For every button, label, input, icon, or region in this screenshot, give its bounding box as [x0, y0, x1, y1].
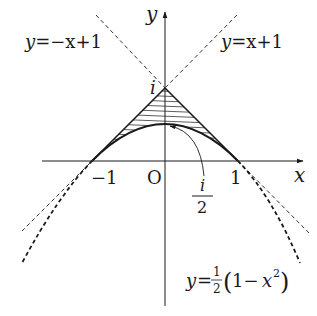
svg-text:2: 2 — [197, 198, 207, 217]
svg-text:y=−x+1: y=−x+1 — [24, 31, 102, 52]
svg-text:): ) — [280, 268, 289, 296]
svg-text:i: i — [200, 176, 205, 195]
svg-text:y: y — [185, 270, 197, 291]
parabola-dashed-right — [238, 161, 300, 263]
label-y-eq-x-plus-1: y=x+1 — [220, 31, 283, 52]
tick-label-neg-one: −1 — [91, 167, 118, 188]
apex-label: i — [150, 77, 156, 98]
svg-text:2: 2 — [213, 282, 221, 296]
svg-text:=: = — [197, 270, 212, 291]
origin-label: O — [147, 167, 162, 188]
vertex-pointer-arrow — [170, 126, 204, 176]
x-axis-label: x — [294, 163, 305, 187]
svg-text:1−: 1− — [232, 270, 259, 291]
label-parabola: y = 1 2 ( 1− x 2 ) — [185, 265, 289, 296]
y-axis-label: y — [145, 2, 158, 26]
parabola-dashed-left — [22, 161, 92, 263]
label-y-eq-neg-x-plus-1: y=−x+1 — [24, 31, 102, 52]
svg-text:(: ( — [223, 268, 232, 296]
svg-text:2: 2 — [273, 267, 280, 280]
vertex-label: i 2 — [192, 176, 213, 217]
tick-label-pos-one: 1 — [230, 167, 241, 188]
svg-text:x: x — [262, 270, 272, 291]
diagram-canvas: y x O −1 1 i i 2 y=−x+1 y=x+1 y = 1 2 ( … — [0, 0, 317, 316]
svg-text:y=x+1: y=x+1 — [220, 31, 283, 52]
svg-text:1: 1 — [213, 265, 221, 279]
